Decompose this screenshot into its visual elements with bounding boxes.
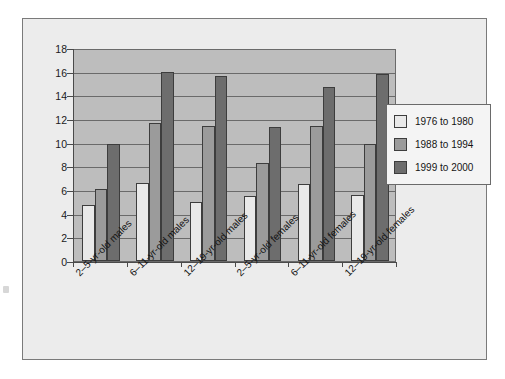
legend-label: 1988 to 1994: [415, 139, 473, 150]
legend-swatch-icon: [394, 138, 407, 151]
x-axis-tick: [73, 262, 74, 267]
x-axis-tick: [396, 262, 397, 267]
bar: [202, 126, 215, 261]
y-axis-tick-label: 10: [41, 139, 67, 150]
legend-swatch-icon: [394, 115, 407, 128]
gridline: [74, 49, 395, 50]
y-axis-tick: [67, 238, 74, 239]
legend-item[interactable]: 1976 to 1980: [394, 112, 484, 131]
legend-swatch-icon: [394, 161, 407, 174]
chart-legend: 1976 to 19801988 to 19941999 to 2000: [386, 104, 491, 185]
bar-group: [244, 50, 282, 261]
y-axis-tick: [67, 96, 74, 97]
gridline: [74, 96, 395, 97]
bar: [269, 127, 282, 261]
bar: [364, 144, 377, 261]
y-axis-tick: [67, 73, 74, 74]
y-axis-tick: [67, 144, 74, 145]
bar: [149, 123, 162, 261]
bar: [215, 76, 228, 261]
gridline: [74, 73, 395, 74]
y-axis-tick-label: 6: [41, 186, 67, 197]
bar: [136, 183, 149, 261]
scan-artifact: [3, 286, 9, 293]
bar-group: [298, 50, 336, 261]
y-axis-tick-labels: 024681012141618: [35, 19, 67, 359]
x-axis-tick: [342, 262, 343, 267]
gridline: [74, 120, 395, 121]
chart-figure-frame: 024681012141618 2–5-yr-old males6–11-yr-…: [22, 18, 487, 360]
y-axis-tick-label: 12: [41, 115, 67, 126]
bar: [351, 195, 364, 261]
bar: [107, 144, 120, 261]
plot-area: [73, 49, 396, 262]
y-axis-tick: [67, 191, 74, 192]
y-axis-tick-label: 4: [41, 210, 67, 221]
bar: [82, 205, 95, 261]
y-axis-tick-label: 16: [41, 68, 67, 79]
x-axis-tick: [288, 262, 289, 267]
x-axis-tick: [235, 262, 236, 267]
y-axis-line: [73, 49, 74, 263]
bar: [298, 184, 311, 261]
bar: [310, 126, 323, 261]
gridline: [74, 215, 395, 216]
y-axis-tick: [67, 167, 74, 168]
bar: [190, 202, 203, 261]
y-axis-tick-label: 14: [41, 91, 67, 102]
bar: [256, 163, 269, 261]
legend-item[interactable]: 1999 to 2000: [394, 158, 484, 177]
x-axis-tick: [127, 262, 128, 267]
y-axis-tick: [67, 120, 74, 121]
bar-group: [190, 50, 228, 261]
y-axis-tick-label: 8: [41, 162, 67, 173]
x-axis-tick: [181, 262, 182, 267]
y-axis-tick: [67, 215, 74, 216]
y-axis-tick-label: 2: [41, 233, 67, 244]
bar: [95, 189, 108, 261]
gridline: [74, 191, 395, 192]
bar-group: [136, 50, 174, 261]
y-axis-tick-label: 0: [41, 257, 67, 268]
legend-item[interactable]: 1988 to 1994: [394, 135, 484, 154]
bar-group: [351, 50, 389, 261]
gridline: [74, 238, 395, 239]
gridline: [74, 167, 395, 168]
gridline: [74, 144, 395, 145]
bar-group: [82, 50, 120, 261]
bar: [323, 87, 336, 261]
y-axis-tick: [67, 49, 74, 50]
legend-label: 1976 to 1980: [415, 116, 473, 127]
bar: [244, 196, 257, 261]
y-axis-tick-label: 18: [41, 44, 67, 55]
bar: [161, 72, 174, 261]
legend-label: 1999 to 2000: [415, 162, 473, 173]
